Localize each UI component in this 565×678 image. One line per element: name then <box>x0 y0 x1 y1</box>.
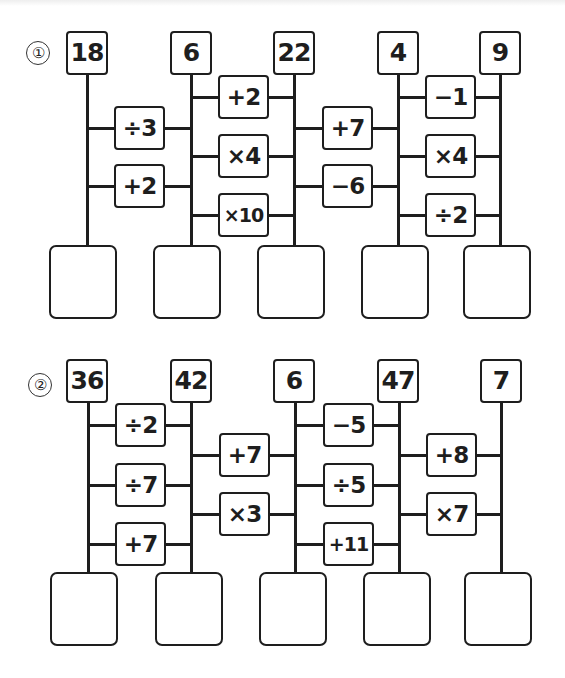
ladder-line <box>86 70 89 248</box>
answer-box[interactable] <box>259 572 327 646</box>
operation-box: ×10 <box>218 193 269 237</box>
operation-box: ×7 <box>426 492 477 536</box>
start-value-box: 47 <box>377 359 419 403</box>
puzzle-number-marker: ① <box>26 41 50 65</box>
start-value-box: 7 <box>480 359 522 403</box>
start-value-box: 6 <box>170 31 212 75</box>
operation-box: ÷7 <box>115 463 166 507</box>
answer-box[interactable] <box>463 245 531 319</box>
start-value-box: 9 <box>479 31 521 75</box>
operation-box: ÷2 <box>425 193 476 237</box>
start-value-box: 22 <box>273 31 315 75</box>
operation-box: +8 <box>426 433 477 477</box>
answer-box[interactable] <box>257 245 325 319</box>
operation-box: +7 <box>115 522 166 566</box>
operation-box: ÷5 <box>323 463 374 507</box>
answer-box[interactable] <box>50 572 118 646</box>
operation-box: −6 <box>322 164 373 208</box>
answer-box[interactable] <box>361 245 429 319</box>
operation-box: ×4 <box>425 134 476 178</box>
start-value-box: 18 <box>66 31 108 75</box>
answer-box[interactable] <box>155 572 223 646</box>
operation-box: +7 <box>322 106 373 150</box>
operation-box: +11 <box>323 522 374 566</box>
operation-box: −1 <box>425 75 476 119</box>
operation-box: +7 <box>219 433 270 477</box>
operation-box: +2 <box>218 75 269 119</box>
operation-box: ÷3 <box>114 106 165 150</box>
puzzle-number-marker: ② <box>28 373 52 397</box>
start-value-box: 6 <box>273 359 315 403</box>
start-value-box: 4 <box>377 31 419 75</box>
operation-box: ÷2 <box>115 403 166 447</box>
answer-box[interactable] <box>153 245 221 319</box>
cropped-header-strip <box>0 0 565 6</box>
operation-box: ×4 <box>218 134 269 178</box>
ladder-line <box>500 398 503 574</box>
start-value-box: 36 <box>66 359 108 403</box>
answer-box[interactable] <box>363 572 431 646</box>
operation-box: ×3 <box>219 492 270 536</box>
start-value-box: 42 <box>170 359 212 403</box>
answer-box[interactable] <box>49 245 117 319</box>
operation-box: −5 <box>323 403 374 447</box>
answer-box[interactable] <box>464 572 532 646</box>
operation-box: +2 <box>114 164 165 208</box>
